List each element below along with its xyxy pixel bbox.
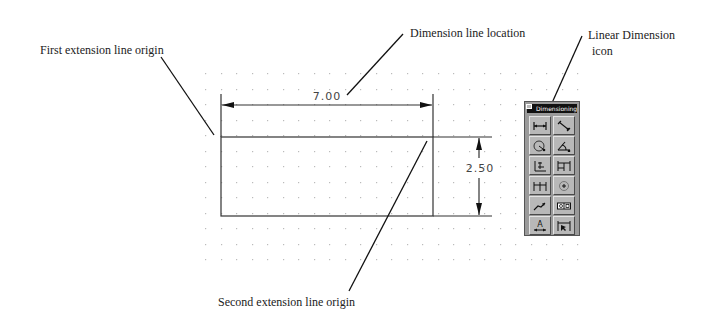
grid-dots <box>205 73 578 260</box>
center-mark-icon <box>556 180 572 192</box>
tolerance-icon <box>556 200 572 212</box>
ordinate-dimension-button[interactable] <box>529 156 551 175</box>
tolerance-button[interactable] <box>553 196 575 215</box>
radius-dimension-button[interactable] <box>529 136 551 155</box>
toolbar-title-bar[interactable]: Dimensioning <box>527 104 577 113</box>
continue-dimension-icon <box>532 180 548 192</box>
first-extension-label: First extension line origin <box>40 43 164 57</box>
dimension-line-leader <box>347 34 403 95</box>
toolbar-title: Dimensioning <box>536 105 577 112</box>
dimensioning-toolbar[interactable]: Dimensioning <box>524 101 580 236</box>
baseline-dimension-icon <box>556 160 572 172</box>
leader-icon <box>532 200 548 212</box>
leader-button[interactable] <box>529 196 551 215</box>
horizontal-dimension-text: 7.00 <box>313 90 342 103</box>
aligned-dimension-button[interactable] <box>553 116 575 135</box>
linear-dimension-label: Linear Dimension <box>588 28 675 42</box>
continue-dimension-button[interactable] <box>529 176 551 195</box>
svg-text:A: A <box>537 220 543 229</box>
dimension-edit-icon <box>556 220 572 232</box>
radius-dimension-icon <box>532 140 548 152</box>
linear-dimension-icon-label: icon <box>592 44 613 58</box>
linear-dimension-icon <box>532 120 548 132</box>
angular-dimension-icon <box>556 140 572 152</box>
aligned-dimension-icon <box>556 120 572 132</box>
center-mark-button[interactable] <box>553 176 575 195</box>
second-extension-label: Second extension line origin <box>218 295 355 309</box>
rectangle-shape <box>221 137 433 216</box>
vertical-dimension <box>433 137 492 216</box>
ordinate-dimension-icon <box>532 160 548 172</box>
toolbar-menu-icon[interactable] <box>526 104 532 109</box>
linear-dimension-button[interactable] <box>529 116 551 135</box>
dimension-line-label: Dimension line location <box>410 26 525 40</box>
baseline-dimension-button[interactable] <box>553 156 575 175</box>
dimension-style-icon: A <box>532 220 548 232</box>
first-extension-leader <box>161 57 214 135</box>
vertical-dimension-text: 2.50 <box>466 162 495 175</box>
angular-dimension-button[interactable] <box>553 136 575 155</box>
dimension-edit-button[interactable] <box>553 216 575 235</box>
dimension-style-button[interactable]: A <box>529 216 551 235</box>
